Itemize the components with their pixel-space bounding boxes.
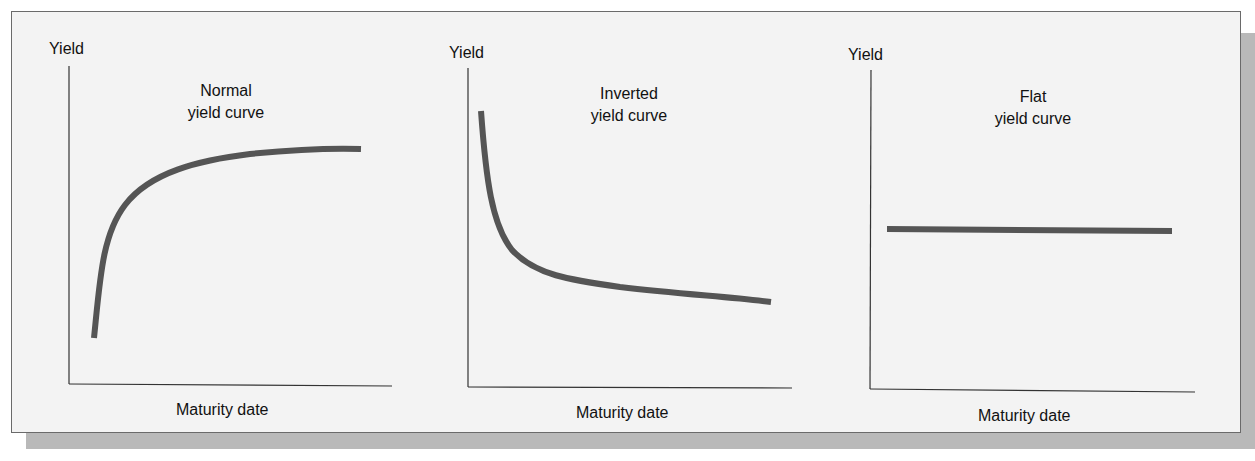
y-axis-label: Yield: [449, 45, 484, 61]
y-axis-label: Yield: [848, 47, 883, 63]
chart-title-flat: Flat yield curve: [995, 86, 1071, 130]
chart-title-normal: Normal yield curve: [188, 80, 264, 124]
x-axis-label: Maturity date: [978, 408, 1070, 424]
chart-title-inverted: Inverted yield curve: [591, 83, 667, 127]
flat-curve: [887, 229, 1172, 231]
title-line-1: Inverted: [591, 83, 667, 105]
x-axis-label: Maturity date: [176, 402, 268, 418]
title-line-2: yield curve: [188, 102, 264, 124]
x-axis: [468, 387, 792, 388]
inverted-curve: [481, 111, 771, 302]
title-line-2: yield curve: [995, 108, 1071, 130]
yield-curves-diagram: [0, 0, 1255, 461]
x-axis: [870, 389, 1195, 392]
normal-curve: [94, 149, 361, 338]
y-axis-label: Yield: [49, 41, 84, 57]
title-line-1: Flat: [995, 86, 1071, 108]
y-axis: [870, 70, 871, 389]
title-line-2: yield curve: [591, 105, 667, 127]
x-axis: [69, 384, 392, 386]
title-line-1: Normal: [188, 80, 264, 102]
x-axis-label: Maturity date: [576, 405, 668, 421]
